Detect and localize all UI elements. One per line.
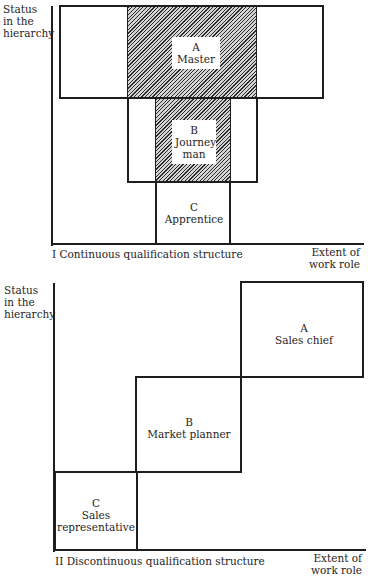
node-label-master: A Master bbox=[172, 37, 220, 69]
y-axis-label-line: Status bbox=[4, 284, 55, 296]
x-axis-label-line: work role bbox=[302, 564, 362, 576]
node-name: man bbox=[175, 148, 213, 160]
node-label-apprentice: C Apprentice bbox=[160, 201, 228, 225]
node-name: Journey bbox=[175, 136, 213, 148]
node-name: Sales bbox=[55, 509, 137, 521]
node-name: Apprentice bbox=[160, 213, 228, 225]
y-axis-label-line: in the bbox=[4, 296, 55, 308]
y-axis bbox=[51, 6, 53, 246]
y-axis-label-line: hierarchy bbox=[4, 308, 55, 320]
diagram-title: I Continuous qualification structure bbox=[52, 248, 243, 260]
node-label-sales-representative: C Sales representative bbox=[55, 497, 137, 533]
x-axis-label: Extent of work role bbox=[302, 552, 362, 576]
node-label-journeyman: B Journey man bbox=[172, 120, 216, 164]
node-letter: B bbox=[175, 124, 213, 136]
x-axis-label-line: work role bbox=[300, 258, 360, 270]
node-label-sales-chief: A Sales chief bbox=[264, 322, 344, 346]
node-name: Sales chief bbox=[264, 334, 344, 346]
node-letter: B bbox=[144, 416, 234, 428]
diagram-title: II Discontinuous qualification structure bbox=[55, 555, 265, 567]
x-axis-label-line: Extent of bbox=[300, 246, 360, 258]
node-name: Master bbox=[175, 53, 217, 65]
node-letter: C bbox=[160, 201, 228, 213]
node-letter: C bbox=[55, 497, 137, 509]
y-axis-label-line: in the bbox=[3, 15, 54, 27]
node-letter: A bbox=[175, 41, 217, 53]
node-letter: A bbox=[264, 322, 344, 334]
y-axis-label-line: Status bbox=[3, 3, 54, 15]
x-axis-label: Extent of work role bbox=[300, 246, 360, 270]
x-axis-label-line: Extent of bbox=[302, 552, 362, 564]
node-name: Market planner bbox=[144, 428, 234, 440]
node-name: representative bbox=[55, 521, 137, 533]
y-axis-label: Status in the hierarchy bbox=[4, 284, 55, 320]
y-axis-label-line: hierarchy bbox=[3, 27, 54, 39]
node-label-market-planner: B Market planner bbox=[144, 416, 234, 440]
y-axis-label: Status in the hierarchy bbox=[3, 3, 54, 39]
